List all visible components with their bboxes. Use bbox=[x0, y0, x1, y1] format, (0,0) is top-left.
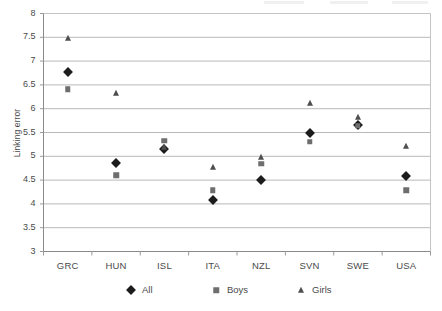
data-point-boys-nzl bbox=[258, 161, 264, 167]
y-tick-label: 7 bbox=[0, 55, 36, 65]
data-point-girls-usa bbox=[403, 143, 409, 149]
data-point-boys-grc bbox=[65, 86, 71, 92]
y-tick-label: 8 bbox=[0, 8, 36, 18]
y-tick-label: 6.5 bbox=[0, 79, 36, 89]
legend-marker-girls bbox=[298, 287, 304, 293]
data-point-girls-svn bbox=[307, 100, 313, 106]
data-point-girls-grc bbox=[65, 35, 71, 41]
y-tick-label: 4 bbox=[0, 198, 36, 208]
y-tick-label: 4.5 bbox=[0, 174, 36, 184]
legend-label-all: All bbox=[142, 284, 153, 295]
y-tick-label: 3.5 bbox=[0, 222, 36, 232]
legend-marker-boys bbox=[213, 287, 219, 293]
gridlines bbox=[44, 14, 431, 228]
legend-label-girls: Girls bbox=[312, 284, 332, 295]
data-point-boys-svn bbox=[307, 139, 313, 145]
data-point-girls-isl bbox=[161, 143, 167, 149]
data-point-boys-ita bbox=[210, 187, 216, 193]
data-point-girls-ita bbox=[210, 163, 216, 169]
data-point-boys-usa bbox=[404, 187, 410, 193]
data-point-girls-hun bbox=[113, 90, 119, 96]
y-tick-marks bbox=[40, 14, 44, 252]
data-point-boys-hun bbox=[113, 173, 119, 179]
data-point-girls-swe bbox=[355, 114, 361, 120]
y-tick-label: 3 bbox=[0, 246, 36, 256]
x-tick-marks bbox=[44, 252, 431, 256]
y-axis-title: Linking error bbox=[12, 98, 22, 168]
y-tick-label: 7.5 bbox=[0, 31, 36, 41]
x-tick-label-usa: USA bbox=[376, 260, 436, 271]
data-point-boys-swe bbox=[355, 123, 361, 129]
scatter-chart: 33.544.555.566.577.58 GRCHUNISLITANZLSVN… bbox=[0, 0, 442, 311]
data-point-girls-nzl bbox=[258, 153, 264, 159]
legend-label-boys: Boys bbox=[227, 284, 248, 295]
